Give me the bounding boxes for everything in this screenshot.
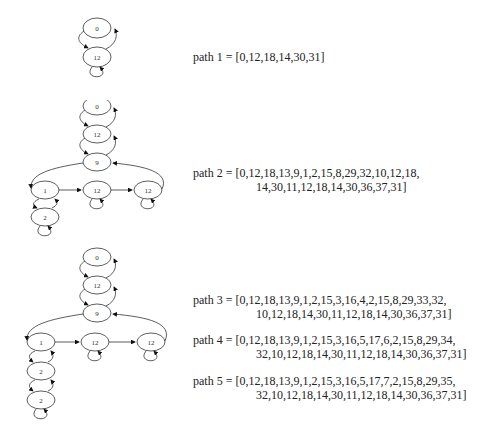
edge-12-0	[106, 29, 116, 49]
node-2: 2	[31, 208, 59, 226]
node-12-c: 12	[137, 333, 165, 351]
node-1: 1	[31, 181, 59, 199]
graph-3: 0 12 9 1 12 12 2 2	[0, 245, 180, 445]
svg-text:2: 2	[43, 214, 47, 222]
node-2-a: 2	[27, 362, 55, 380]
path-4-text: path 4 = [0,12,18,13,9,1,2,15,3,16,5,17,…	[193, 333, 467, 361]
node-0: 0	[83, 248, 111, 266]
svg-text:12: 12	[92, 339, 100, 347]
svg-text:0: 0	[95, 25, 99, 33]
svg-text:12: 12	[94, 131, 102, 139]
node-2-b: 2	[27, 391, 55, 409]
node-12-b: 12	[83, 181, 111, 199]
node-9: 9	[83, 153, 111, 171]
node-1: 1	[27, 333, 55, 351]
node-12-b: 12	[81, 333, 109, 351]
svg-text:12: 12	[94, 54, 102, 62]
node-9: 9	[83, 304, 111, 322]
svg-text:9: 9	[95, 310, 99, 318]
graph-2: 0 12 9 1 12 12 2	[0, 100, 180, 240]
node-12-a: 12	[83, 125, 111, 143]
svg-text:2: 2	[39, 368, 43, 376]
path-5-text: path 5 = [0,12,18,13,9,1,2,15,3,16,5,17,…	[193, 374, 467, 402]
svg-text:9: 9	[95, 159, 99, 167]
svg-text:0: 0	[95, 103, 99, 111]
node-0: 0	[83, 18, 111, 38]
path-2-text: path 2 = [0,12,18,13,9,1,2,15,8,29,32,10…	[193, 166, 419, 194]
svg-text:1: 1	[43, 187, 47, 195]
node-0: 0	[83, 100, 111, 115]
node-12-c: 12	[134, 181, 162, 199]
svg-text:12: 12	[94, 187, 102, 195]
svg-text:1: 1	[39, 339, 43, 347]
edge-0-12	[79, 31, 88, 48]
path-3-text: path 3 = [0,12,18,13,9,1,2,15,3,16,4,2,1…	[193, 293, 452, 321]
graph-1: 0 12	[0, 0, 180, 100]
svg-text:12: 12	[94, 282, 102, 290]
svg-text:2: 2	[39, 397, 43, 405]
svg-text:12: 12	[145, 187, 153, 195]
svg-text:0: 0	[95, 254, 99, 262]
node-12: 12	[83, 47, 111, 67]
node-12-a: 12	[83, 276, 111, 294]
path-1-text: path 1 = [0,12,18,14,30,31]	[193, 50, 324, 64]
edge-12-12-loop	[90, 67, 103, 77]
svg-text:12: 12	[148, 339, 156, 347]
